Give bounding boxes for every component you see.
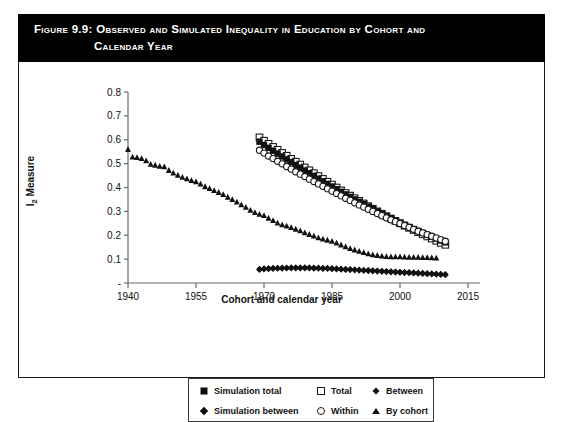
open-square-icon xyxy=(315,386,326,397)
svg-text:0.4: 0.4 xyxy=(107,182,121,193)
y-axis-title: I2 Measure xyxy=(25,121,39,241)
svg-text:0.6: 0.6 xyxy=(107,134,121,145)
figure-title-text: Figure 9.9: Observed and Simulated Inequ… xyxy=(34,21,535,54)
legend-label: Simulation total xyxy=(214,386,282,396)
legend-item-by-cohort[interactable]: By cohort xyxy=(370,406,428,417)
legend-label: Simulation between xyxy=(214,406,299,416)
svg-text:0.2: 0.2 xyxy=(107,230,121,241)
legend-item-total[interactable]: Total xyxy=(315,386,352,397)
svg-text:0.7: 0.7 xyxy=(107,110,121,121)
scatter-plot-svg: -0.10.20.30.40.50.60.70.8194019551970198… xyxy=(18,62,545,378)
figure-number-label: Figure 9.9: xyxy=(34,23,93,35)
svg-text:0.1: 0.1 xyxy=(107,254,121,265)
filled-diamond-icon xyxy=(198,406,209,417)
legend-label: By cohort xyxy=(386,406,428,416)
open-circle-icon xyxy=(315,406,326,417)
legend-item-within[interactable]: Within xyxy=(315,406,358,417)
svg-text:0.3: 0.3 xyxy=(107,206,121,217)
legend-item-simulation-between[interactable]: Simulation between xyxy=(198,406,299,417)
svg-text:0.5: 0.5 xyxy=(107,158,121,169)
chart-plot-container: -0.10.20.30.40.50.60.70.8194019551970198… xyxy=(18,62,545,378)
legend-item-simulation-total[interactable]: Simulation total xyxy=(198,386,282,397)
figure-title-line-2: Calendar Year xyxy=(34,38,535,55)
figure-title-banner: Figure 9.9: Observed and Simulated Inequ… xyxy=(18,14,545,62)
small-triangle-icon xyxy=(370,406,381,417)
svg-text:0.8: 0.8 xyxy=(107,87,121,98)
legend-label: Within xyxy=(331,406,358,416)
legend-row: Simulation totalTotalBetween xyxy=(189,381,433,401)
figure-title-line-1: Observed and Simulated Inequality in Edu… xyxy=(96,23,425,35)
svg-text:-: - xyxy=(118,278,121,289)
x-axis-title: Cohort and calendar year xyxy=(18,294,545,305)
legend-item-between[interactable]: Between xyxy=(370,386,423,397)
legend-label: Total xyxy=(331,386,352,396)
legend-label: Between xyxy=(386,386,423,396)
chart-legend: Simulation totalTotalBetween Simulation … xyxy=(188,378,434,422)
legend-row: Simulation betweenWithinBy cohort xyxy=(189,401,433,421)
data-points-layer xyxy=(125,134,449,278)
filled-square-icon xyxy=(198,386,209,397)
small-filled-diamond-icon xyxy=(370,386,381,397)
axes-layer: -0.10.20.30.40.50.60.70.8194019551970198… xyxy=(107,87,480,302)
